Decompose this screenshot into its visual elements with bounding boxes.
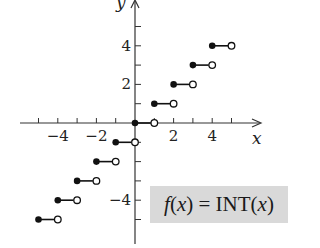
x-tick-label: −2: [85, 127, 107, 145]
open-dot-icon: [190, 81, 197, 88]
y-tick-label: −4: [109, 191, 131, 209]
step-segment: [74, 178, 100, 185]
formula-rest: ) = INT(: [186, 192, 257, 217]
open-dot-icon: [209, 62, 216, 69]
step-segment: [190, 62, 216, 69]
y-tick-label: 4: [121, 37, 131, 55]
formula-end: ): [267, 192, 274, 217]
open-dot-icon: [170, 100, 177, 107]
open-dot-icon: [132, 139, 139, 146]
open-dot-icon: [55, 216, 62, 223]
closed-dot-icon: [55, 197, 62, 204]
x-tick-label: 4: [207, 127, 217, 145]
x-tick-label: 2: [169, 127, 179, 145]
step-segment: [170, 81, 196, 88]
formula-lparen: (: [170, 192, 177, 217]
closed-dot-icon: [132, 120, 139, 127]
closed-dot-icon: [151, 100, 158, 107]
x-tick-label: −4: [47, 127, 69, 145]
y-axis-label: y: [115, 0, 126, 12]
formula-x2: x: [258, 192, 267, 217]
step-segment: [209, 43, 235, 50]
formula-x: x: [177, 192, 186, 217]
closed-dot-icon: [74, 178, 81, 185]
step-segment: [35, 216, 61, 223]
y-tick-label: 2: [121, 75, 131, 93]
step-segment: [132, 120, 158, 127]
closed-dot-icon: [209, 43, 216, 50]
closed-dot-icon: [35, 216, 42, 223]
open-dot-icon: [93, 178, 100, 185]
open-dot-icon: [151, 120, 158, 127]
step-segment: [151, 100, 177, 107]
closed-dot-icon: [170, 81, 177, 88]
open-dot-icon: [74, 197, 81, 204]
step-segment: [55, 197, 81, 204]
step-segment: [93, 158, 119, 165]
step-segment: [112, 139, 138, 146]
function-label-box: f(x) = INT(x): [150, 186, 288, 223]
open-dot-icon: [112, 158, 119, 165]
open-dot-icon: [228, 43, 235, 50]
x-axis-label: x: [252, 128, 262, 148]
closed-dot-icon: [93, 158, 100, 165]
closed-dot-icon: [190, 62, 197, 69]
closed-dot-icon: [112, 139, 119, 146]
